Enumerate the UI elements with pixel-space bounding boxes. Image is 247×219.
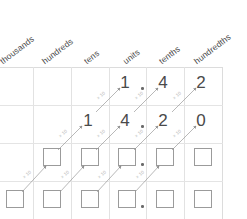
place-value-chart: thousands hundreds tens units tenths hun… — [0, 0, 247, 219]
arrow-layer — [0, 0, 247, 219]
